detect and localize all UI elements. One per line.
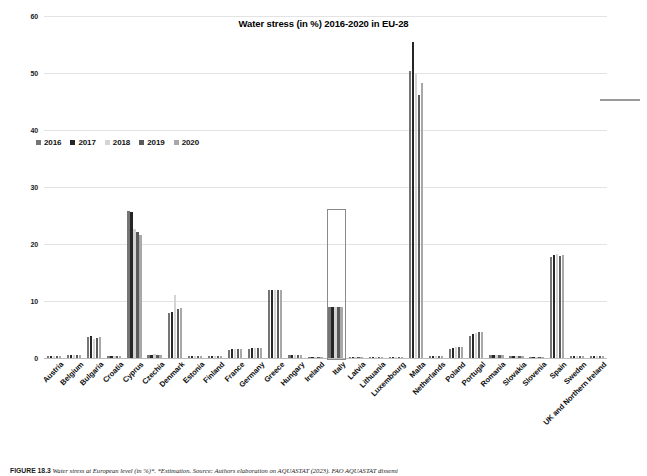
- figure-caption: FIGURE 18.3 Water stress at European lev…: [10, 467, 639, 475]
- highlight-rectangle: [327, 209, 346, 360]
- legend-swatch-icon: [36, 140, 41, 145]
- y-axis-tick-label: 0: [0, 355, 38, 362]
- legend-item[interactable]: 2019: [139, 138, 164, 147]
- legend-swatch-icon: [139, 140, 144, 145]
- legend-item[interactable]: 2020: [174, 138, 199, 147]
- legend-swatch-icon: [105, 140, 110, 145]
- y-axis-tick-label: 10: [0, 298, 38, 305]
- x-axis-label: Croatia: [101, 360, 125, 384]
- plot-area: [44, 16, 607, 358]
- page-edge-mark: [600, 99, 640, 101]
- legend-item-label: 2019: [147, 138, 164, 147]
- y-axis-tick-label: 50: [0, 70, 38, 77]
- y-axis-tick-label: 40: [0, 127, 38, 134]
- chart-legend: 20162017201820192020: [36, 138, 199, 147]
- legend-item-label: 2018: [113, 138, 130, 147]
- figure-caption-label: FIGURE 18.3: [10, 467, 51, 474]
- legend-item[interactable]: 2016: [36, 138, 61, 147]
- x-axis-label: Italy: [330, 360, 347, 377]
- y-axis-tick-label: 30: [0, 184, 38, 191]
- legend-item[interactable]: 2018: [105, 138, 130, 147]
- legend-swatch-icon: [174, 140, 179, 145]
- legend-item-label: 2017: [78, 138, 95, 147]
- axis-baseline: [44, 358, 607, 359]
- annotations-layer: [44, 16, 607, 358]
- x-axis-label: Ireland: [303, 360, 326, 383]
- y-axis-tick-label: 60: [0, 13, 38, 20]
- y-axis-tick-label: 20: [0, 241, 38, 248]
- legend-item-label: 2016: [44, 138, 61, 147]
- figure-container: Water stress (in %) 2016-2020 in EU-28 0…: [0, 0, 647, 476]
- legend-item-label: 2020: [182, 138, 199, 147]
- x-axis-labels: AustriaBelgiumBulgariaCroatiaCyprusCzech…: [44, 360, 607, 460]
- figure-caption-text: Water stress at European level (in %)*. …: [52, 467, 397, 474]
- legend-swatch-icon: [70, 140, 75, 145]
- legend-item[interactable]: 2017: [70, 138, 95, 147]
